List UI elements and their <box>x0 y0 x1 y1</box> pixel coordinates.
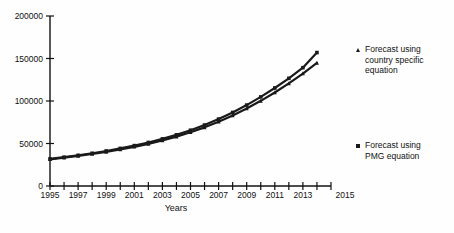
legend-label-country-specific: Forecast using country specific equation <box>365 44 424 76</box>
series-marker-square <box>76 154 80 158</box>
y-axis-tick-label: 200000 <box>15 11 44 21</box>
data-series-layer <box>48 51 319 161</box>
series-marker-square <box>133 144 137 148</box>
legend-entry-pmg[interactable]: Forecast using PMG equation <box>356 140 421 161</box>
x-axis-tick-label: 1995 <box>41 190 60 200</box>
series-marker-square <box>203 123 207 127</box>
x-axis-title: Years <box>165 203 188 213</box>
series-line <box>50 53 317 159</box>
y-axis-tick-label: 100000 <box>15 96 44 106</box>
x-axis-tick-label: 1999 <box>97 190 116 200</box>
series-marker-square <box>287 77 291 81</box>
series-marker-square <box>175 133 179 137</box>
series-marker-square <box>189 128 193 132</box>
series-marker-square <box>62 155 66 159</box>
series-marker-square <box>118 147 122 151</box>
square-marker-icon <box>356 144 360 148</box>
x-axis-tick-label: 2001 <box>125 190 144 200</box>
x-axis-tick-label: 2013 <box>293 190 312 200</box>
legend-entry-country-specific[interactable]: Forecast using country specific equation <box>356 44 424 76</box>
x-axis-tick-label: 1997 <box>69 190 88 200</box>
y-axis-tick-label: 50000 <box>19 139 43 149</box>
legend-label-pmg: Forecast using PMG equation <box>365 140 421 161</box>
x-axis-tick-label: 2009 <box>237 190 256 200</box>
series-marker-square <box>90 151 94 155</box>
x-axis-tick-label: 2015 <box>336 190 355 200</box>
series-marker-square <box>315 51 319 55</box>
chart-figure: 050000100000150000200000 199519971999200… <box>0 0 454 233</box>
x-axis-ticks <box>50 182 331 190</box>
series-marker-square <box>217 117 221 121</box>
x-axis-tick-label: 2007 <box>209 190 228 200</box>
x-axis-tick-label: 2005 <box>181 190 200 200</box>
series-marker-square <box>231 111 235 115</box>
series-marker-square <box>161 137 165 141</box>
series-marker-square <box>245 103 249 107</box>
series-marker-square <box>273 86 277 90</box>
x-axis-tick-labels: 1995199719992001200320052007200920112013… <box>41 190 355 200</box>
series-marker-square <box>259 95 263 99</box>
series-marker-square <box>48 157 52 161</box>
x-axis-tick-label: 2003 <box>153 190 172 200</box>
y-axis-tick-label: 150000 <box>15 54 44 64</box>
series-marker-square <box>147 141 151 145</box>
y-axis-tick-labels: 050000100000150000200000 <box>15 11 44 191</box>
x-axis-tick-label: 2011 <box>266 190 285 200</box>
series-marker-square <box>301 66 305 70</box>
series-marker-square <box>104 149 108 153</box>
line-chart-plot: 050000100000150000200000 199519971999200… <box>0 0 454 233</box>
series-line <box>50 63 317 159</box>
triangle-marker-icon <box>356 48 360 52</box>
